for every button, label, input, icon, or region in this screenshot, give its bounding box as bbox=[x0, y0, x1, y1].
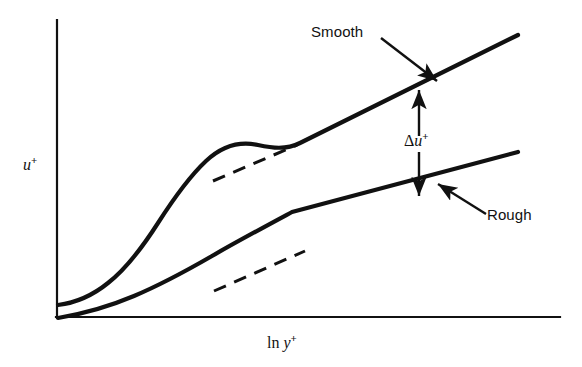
y-axis-superscript: + bbox=[31, 154, 37, 166]
annotation-label-delta-u-plus: Δu+ bbox=[404, 131, 429, 149]
delta-glyph: Δ bbox=[404, 132, 414, 149]
y-axis-label: u+ bbox=[23, 155, 37, 173]
x-axis-symbol: y bbox=[283, 334, 290, 351]
x-axis-operator: ln bbox=[267, 334, 279, 351]
dashed-tangent-smooth bbox=[213, 145, 297, 181]
y-axis-symbol: u bbox=[23, 156, 31, 173]
curve-rough bbox=[58, 152, 518, 318]
smooth-leader-arrow bbox=[381, 38, 437, 81]
x-axis-superscript: + bbox=[291, 332, 297, 344]
rough-leader-arrow bbox=[438, 184, 486, 214]
annotation-label-smooth: Smooth bbox=[311, 24, 363, 39]
figure-root: Smooth Rough Δu+ u+ ln y+ bbox=[0, 0, 582, 367]
plot-canvas bbox=[0, 0, 582, 367]
annotation-label-rough: Rough bbox=[487, 207, 532, 222]
dashed-tangent-rough bbox=[214, 251, 305, 291]
x-axis-label: ln y+ bbox=[267, 333, 297, 351]
axis-lines bbox=[56, 20, 560, 318]
delta-u-superscript: + bbox=[422, 130, 428, 142]
